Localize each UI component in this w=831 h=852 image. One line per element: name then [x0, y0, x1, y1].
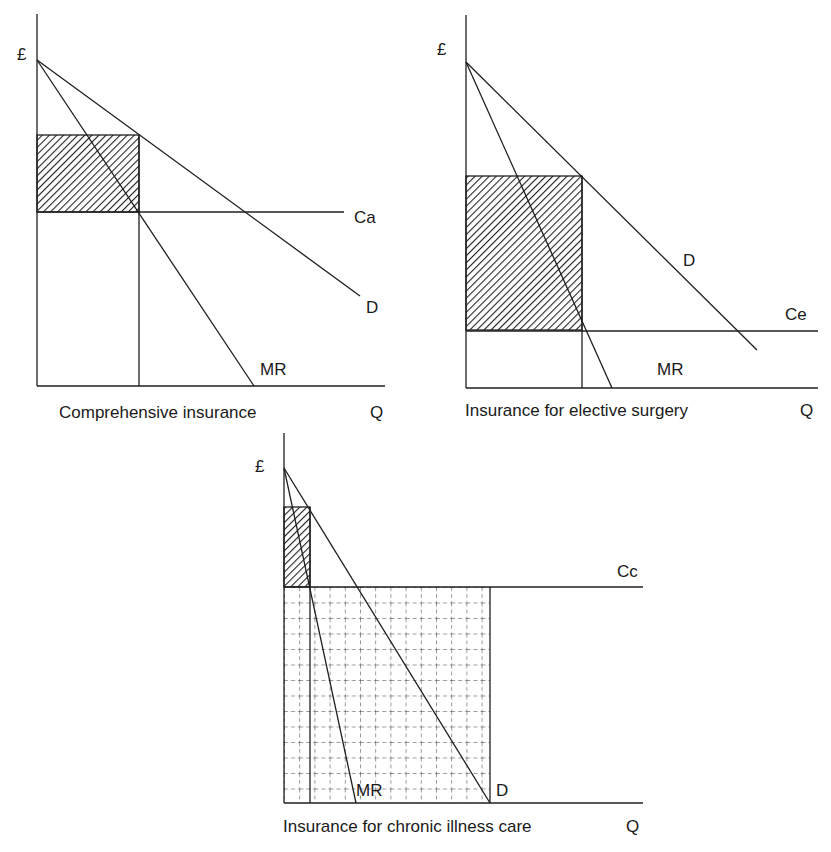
caption: Comprehensive insurance: [59, 403, 257, 422]
cost-label: Cc: [617, 562, 638, 581]
chart-comprehensive: [37, 14, 385, 386]
chart-comprehensive-labels: £ Ca D MR Comprehensive insurance Q: [17, 45, 383, 422]
chart-elective: [466, 15, 818, 388]
x-axis-label: Q: [800, 401, 813, 420]
x-axis-label: Q: [626, 817, 639, 836]
y-axis-label: £: [255, 457, 265, 476]
caption: Insurance for elective surgery: [465, 401, 688, 420]
demand-label: D: [683, 251, 695, 270]
x-axis-label: Q: [370, 403, 383, 422]
mr-label: MR: [657, 360, 683, 379]
cost-label: Ce: [785, 305, 807, 324]
cost-label: Ca: [354, 208, 376, 227]
demand-label: D: [496, 781, 508, 800]
profit-hatch-area: [466, 176, 582, 330]
y-axis-label: £: [437, 40, 447, 59]
demand-label: D: [366, 298, 378, 317]
mr-label: MR: [260, 360, 286, 379]
mr-curve: [37, 60, 254, 386]
chart-chronic: [284, 433, 643, 803]
mr-label: MR: [356, 781, 382, 800]
profit-hatch-area: [37, 135, 139, 212]
diagram-canvas: £ Ca D MR Comprehensive insurance Q £ Ce…: [0, 0, 831, 852]
profit-hatch-area: [284, 507, 310, 587]
caption: Insurance for chronic illness care: [283, 817, 532, 836]
y-axis-label: £: [17, 45, 27, 64]
cost-grid-area: [284, 587, 490, 803]
